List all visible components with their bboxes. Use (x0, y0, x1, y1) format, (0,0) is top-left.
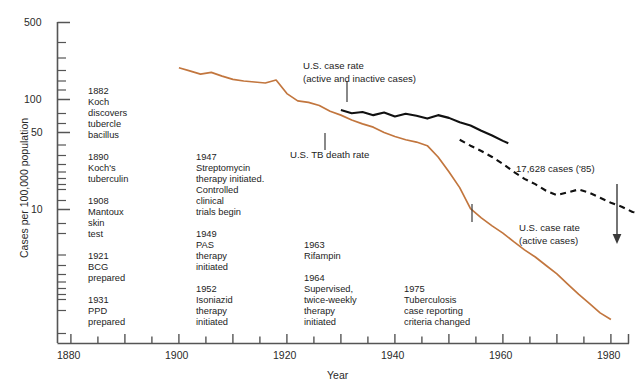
y-axis (58, 22, 71, 343)
plot-area (0, 0, 641, 389)
callout-case-rate-all-line2: (active and inactive cases) (303, 73, 416, 84)
y-axis-title: Cases per 100,000 population (18, 118, 30, 258)
callout-case-rate-active-line2: (active cases) (519, 235, 578, 246)
annotation-1890: 1890 Koch's tuberculin (88, 152, 128, 185)
annotation-1921: 1921 BCG prepared (88, 251, 125, 284)
y-tick-label-50: 50 (31, 126, 43, 138)
x-axis-title: Year (327, 369, 348, 381)
y-minor-ticks (58, 43, 67, 334)
x-tick-label-1960: 1960 (489, 349, 512, 361)
annotation-1949: 1949 PAS therapy initiated (196, 229, 228, 273)
x-tick-label-1980: 1980 (597, 349, 620, 361)
line-us-case-rate-all (341, 110, 508, 143)
callout-endpoint: 17,628 cases ('85) (516, 163, 595, 174)
tuberculosis-rate-chart: 500 100 50 10 Cases per 100,000 populati… (0, 0, 641, 389)
endpoint-arrow (613, 184, 622, 244)
line-us-case-rate-active (460, 140, 638, 213)
x-ticks (71, 334, 611, 344)
callout-death-rate: U.S. TB death rate (290, 149, 369, 160)
x-tick-label-1900: 1900 (165, 349, 188, 361)
annotation-1947: 1947 Streptomycin therapy initiated. Con… (196, 152, 264, 218)
x-tick-label-1920: 1920 (273, 349, 296, 361)
callout-case-rate-all-line1: U.S. case rate (303, 60, 364, 71)
callout-case-rate-active-line1: U.S. case rate (519, 222, 580, 233)
y-tick-label-10: 10 (31, 203, 43, 215)
annotation-1931: 1931 PPD prepared (88, 295, 125, 328)
x-tick-label-1940: 1940 (381, 349, 404, 361)
x-axis (58, 334, 630, 344)
annotation-1908: 1908 Mantoux skin test (88, 196, 124, 240)
annotation-1975: 1975 Tuberculosis case reporting criteri… (404, 284, 470, 328)
x-tick-label-1880: 1880 (57, 349, 80, 361)
y-tick-label-500: 500 (24, 16, 42, 28)
annotation-1963: 1963 Rifampin (304, 240, 341, 262)
annotation-1964: 1964 Supervised, twice-weekly therapy in… (304, 273, 357, 328)
y-tick-label-100: 100 (24, 93, 42, 105)
annotation-1882: 1882 Koch discovers tubercle bacillus (88, 86, 127, 141)
annotation-1952: 1952 Isoniazid therapy initiated (196, 284, 233, 328)
